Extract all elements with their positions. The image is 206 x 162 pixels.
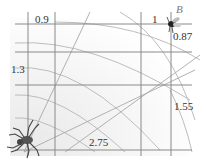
label-top-right: 1: [152, 14, 158, 25]
label-bottom: 2.75: [89, 137, 108, 148]
label-point-b: B: [176, 4, 183, 15]
label-right-top: 0.87: [173, 31, 192, 42]
label-top-left: 0.9: [35, 14, 49, 25]
label-right-middle: 1.55: [174, 101, 193, 112]
label-left-middle: 1.3: [11, 64, 25, 75]
